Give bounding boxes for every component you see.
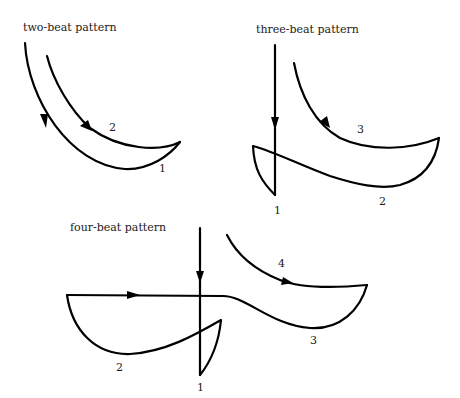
four-beat-stroke-4: [227, 235, 367, 287]
four-beat-stroke-3: [222, 285, 367, 328]
two-beat-panel: two-beat pattern 2 1: [23, 21, 180, 175]
two-beat-arrow-down-icon: [40, 114, 48, 128]
two-beat-title: two-beat pattern: [23, 21, 117, 34]
three-beat-label-1: 1: [274, 204, 281, 217]
four-beat-label-1: 1: [197, 381, 204, 394]
conducting-patterns-diagram: two-beat pattern 2 1 three-beat pattern …: [0, 0, 460, 398]
four-beat-stroke-horizontal: [67, 295, 222, 296]
four-beat-stroke-2: [67, 295, 221, 375]
two-beat-arrow-up-icon: [80, 120, 92, 131]
four-beat-label-2: 2: [116, 361, 123, 374]
two-beat-label-2: 2: [109, 121, 116, 134]
three-beat-label-3: 3: [357, 123, 364, 136]
three-beat-arrow-down-icon: [271, 117, 279, 130]
four-beat-panel: four-beat pattern 4 3 2 1: [67, 221, 367, 394]
two-beat-label-1: 1: [159, 162, 166, 175]
four-beat-arrow-down-icon: [196, 271, 204, 283]
four-beat-label-3: 3: [310, 334, 317, 347]
four-beat-label-4: 4: [278, 257, 285, 270]
two-beat-stroke-2: [47, 56, 180, 148]
three-beat-panel: three-beat pattern 3 2 1: [253, 23, 439, 217]
four-beat-title: four-beat pattern: [70, 221, 166, 234]
three-beat-stroke-3: [294, 63, 439, 148]
three-beat-label-2: 2: [379, 195, 386, 208]
four-beat-arrow-right-icon: [127, 291, 140, 299]
three-beat-title: three-beat pattern: [256, 23, 359, 36]
